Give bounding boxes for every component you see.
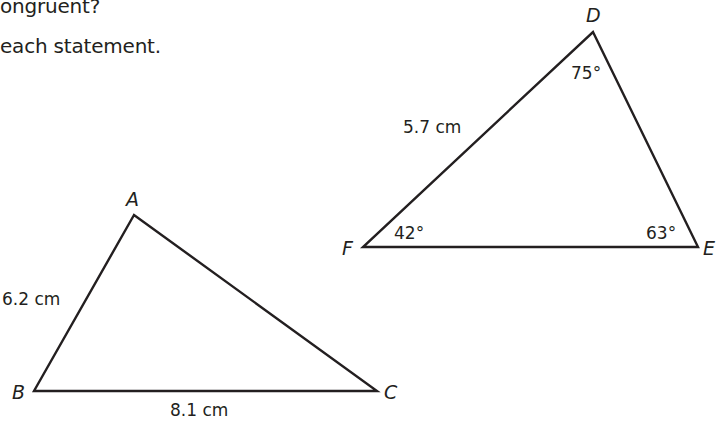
vertex-label-b: B xyxy=(12,381,25,403)
side-df-length: 5.7 cm xyxy=(403,117,461,137)
vertex-label-f: F xyxy=(342,237,354,259)
angle-e-measure: 63° xyxy=(646,223,676,243)
triangle-def-outline xyxy=(363,32,698,247)
vertex-label-d: D xyxy=(586,4,601,26)
side-ab-length: 6.2 cm xyxy=(2,289,60,309)
vertex-label-e: E xyxy=(703,237,715,259)
triangle-def: D E F 5.7 cm 75° 63° 42° xyxy=(342,4,715,259)
side-bc-length: 8.1 cm xyxy=(170,400,228,420)
triangle-abc: A B C 6.2 cm 8.1 cm xyxy=(2,188,398,420)
triangle-abc-outline xyxy=(34,215,377,391)
angle-f-measure: 42° xyxy=(394,223,424,243)
angle-d-measure: 75° xyxy=(571,63,601,83)
vertex-label-c: C xyxy=(384,381,398,403)
triangles-diagram: A B C 6.2 cm 8.1 cm D E F 5.7 cm 75° 63°… xyxy=(0,0,718,424)
vertex-label-a: A xyxy=(124,188,139,210)
